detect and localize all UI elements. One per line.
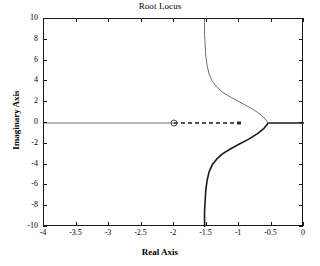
series-lower-branch <box>205 123 269 227</box>
x-axis-label: Real Axis <box>0 247 320 257</box>
locus-svg <box>44 19 304 227</box>
y-tick-mark-right <box>299 18 303 19</box>
y-tick-mark <box>43 101 47 102</box>
x-tick-label: -2.5 <box>126 228 156 237</box>
y-tick-mark-right <box>299 226 303 227</box>
x-tick-label: -1.5 <box>191 228 221 237</box>
pole-marker-icon <box>237 122 241 125</box>
y-tick-mark-right <box>299 101 303 102</box>
y-tick-mark-right <box>299 60 303 61</box>
x-tick-label: 0 <box>288 228 318 237</box>
x-tick-mark <box>206 222 207 226</box>
y-tick-mark <box>43 164 47 165</box>
x-tick-mark-top <box>173 18 174 22</box>
y-tick-mark <box>43 18 47 19</box>
y-tick-mark-right <box>299 143 303 144</box>
y-tick-mark <box>43 39 47 40</box>
x-tick-mark <box>238 222 239 226</box>
x-tick-label: -3.5 <box>61 228 91 237</box>
y-tick-mark <box>43 226 47 227</box>
y-tick-mark <box>43 122 47 123</box>
x-tick-mark <box>108 222 109 226</box>
y-axis-label: Imaginary Axis <box>11 50 21 190</box>
y-tick-mark-right <box>299 80 303 81</box>
root-locus-figure: Root Locus -4-3.5-3-2.5-2-1.5-1-0.50 -10… <box>0 0 320 266</box>
x-tick-mark-top <box>76 18 77 22</box>
y-tick-mark <box>43 143 47 144</box>
x-tick-mark-top <box>206 18 207 22</box>
y-tick-label: 8 <box>12 34 38 43</box>
x-tick-label: -3 <box>93 228 123 237</box>
x-tick-mark-top <box>141 18 142 22</box>
y-tick-mark-right <box>299 39 303 40</box>
x-tick-mark-top <box>271 18 272 22</box>
y-tick-label: -10 <box>12 221 38 230</box>
y-tick-mark <box>43 184 47 185</box>
x-tick-mark-top <box>108 18 109 22</box>
x-tick-label: -1 <box>223 228 253 237</box>
y-tick-mark-right <box>299 205 303 206</box>
x-tick-mark <box>271 222 272 226</box>
x-tick-mark <box>141 222 142 226</box>
x-tick-mark <box>76 222 77 226</box>
y-tick-label: 10 <box>12 13 38 22</box>
series-upper-branch <box>205 19 269 123</box>
y-tick-mark <box>43 80 47 81</box>
x-tick-label: -0.5 <box>256 228 286 237</box>
y-tick-mark <box>43 205 47 206</box>
y-tick-mark-right <box>299 122 303 123</box>
y-tick-mark <box>43 60 47 61</box>
x-tick-mark-top <box>303 18 304 22</box>
x-tick-label: -2 <box>158 228 188 237</box>
x-tick-mark <box>173 222 174 226</box>
y-tick-mark-right <box>299 184 303 185</box>
chart-title: Root Locus <box>0 1 320 11</box>
y-tick-label: -8 <box>12 200 38 209</box>
x-tick-mark-top <box>238 18 239 22</box>
y-tick-mark-right <box>299 164 303 165</box>
x-tick-mark <box>303 222 304 226</box>
plot-area <box>43 18 303 226</box>
